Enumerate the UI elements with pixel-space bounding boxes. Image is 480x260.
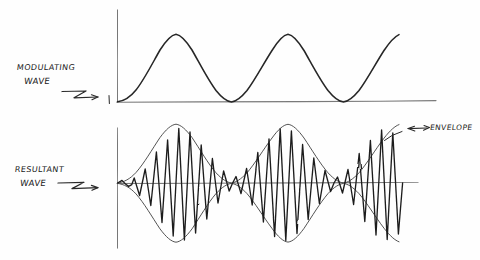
resultant-wave-label-line2: WAVE	[20, 178, 63, 189]
modulating-wave-label-line2: WAVE	[24, 76, 74, 87]
modulating-wave-label-line1: MODULATING	[16, 63, 75, 72]
waveform-sketch	[0, 0, 480, 260]
modulating-wave-label: MODULATING WAVE	[15, 63, 76, 87]
modulating-wave-panel	[117, 10, 436, 102]
envelope-label: ENVELOPE	[429, 123, 473, 132]
figure-canvas: MODULATING WAVE RESULTANT WAVE ENVELOPE	[0, 0, 480, 260]
envelope-leader-arrow	[385, 126, 430, 141]
resultant-y-axis	[117, 128, 118, 248]
modulated-carrier-curve	[118, 129, 403, 241]
resultant-wave-label-line1: RESULTANT	[14, 165, 64, 174]
resultant-wave-panel	[117, 124, 418, 248]
modulating-pointer-arrow	[62, 91, 109, 104]
resultant-pointer-arrow	[58, 182, 98, 190]
modulating-wave-curve	[118, 34, 400, 102]
modulating-x-axis	[117, 101, 436, 103]
resultant-wave-label: RESULTANT WAVE	[13, 165, 65, 189]
